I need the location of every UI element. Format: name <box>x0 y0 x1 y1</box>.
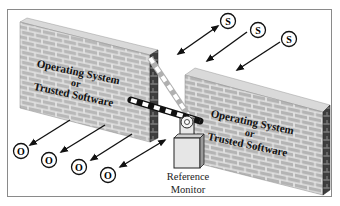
svg-text:O: O <box>75 162 83 173</box>
reference-monitor-label-line1: Reference <box>160 170 216 183</box>
svg-text:S: S <box>286 34 292 45</box>
svg-text:S: S <box>225 16 231 27</box>
object-o4: O <box>101 168 116 183</box>
subject-s1: S <box>221 14 236 29</box>
svg-text:O: O <box>17 146 25 157</box>
reference-monitor-label-line2: Monitor <box>160 183 216 196</box>
svg-text:S: S <box>255 25 261 36</box>
object-o3: O <box>72 160 87 175</box>
object-o2: O <box>42 153 57 168</box>
svg-text:O: O <box>45 155 53 166</box>
object-o1: O <box>14 144 29 159</box>
subject-s3: S <box>282 32 297 47</box>
svg-text:O: O <box>104 170 112 181</box>
reference-monitor-label: Reference Monitor <box>160 170 216 196</box>
subject-s2: S <box>251 23 266 38</box>
